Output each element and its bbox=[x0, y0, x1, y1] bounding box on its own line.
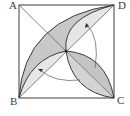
vertex-label-b: B bbox=[10, 96, 17, 107]
geometry-figure: A D B C bbox=[0, 0, 130, 116]
center-point-o bbox=[65, 50, 68, 53]
vertex-label-d: D bbox=[118, 0, 126, 11]
square-abcd-diagram bbox=[0, 0, 130, 116]
vertex-label-c: C bbox=[117, 95, 124, 106]
vertex-label-a: A bbox=[9, 0, 17, 11]
